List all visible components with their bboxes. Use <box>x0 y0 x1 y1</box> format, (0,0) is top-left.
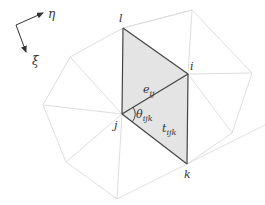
vertex-label-l: l <box>119 12 123 25</box>
xi-axis-arrow-icon <box>16 25 26 52</box>
eta-label: η <box>48 7 56 21</box>
vertex-label-i: i <box>190 60 194 73</box>
shaded-triangle-pair <box>122 28 188 164</box>
vertex-label-j: j <box>111 119 118 132</box>
mesh-edge <box>117 114 122 199</box>
mesh-edge <box>43 105 122 114</box>
mesh-edge <box>188 74 232 133</box>
eta-axis-arrow-icon <box>16 13 43 25</box>
mesh-edge <box>70 57 122 114</box>
xi-label: ξ <box>32 54 40 68</box>
mesh-edge <box>187 125 265 164</box>
mesh-edge <box>188 73 252 74</box>
mesh-diagram: η ξ l i j k eij θijk tijk <box>0 0 265 205</box>
mesh-edge <box>123 10 192 28</box>
local-frame: η ξ <box>16 7 56 68</box>
vertex-label-k: k <box>184 168 191 181</box>
